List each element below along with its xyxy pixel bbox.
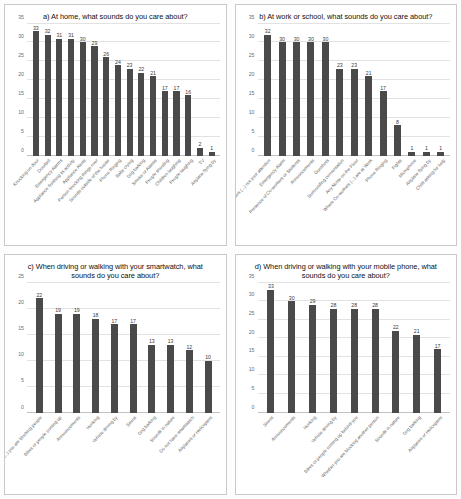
bar[interactable]: 32	[264, 35, 271, 156]
bar[interactable]: 22	[36, 298, 43, 412]
bar-slot: 28	[344, 283, 365, 413]
x-axis-labels-c: (...) you are blocking peopleBikes or pe…	[30, 413, 220, 475]
bar[interactable]: 21	[365, 76, 372, 155]
bar[interactable]: 17	[130, 324, 137, 412]
bar[interactable]: 30	[322, 42, 329, 155]
plot-area-d: 05101520253035333029282828222117	[258, 283, 451, 413]
bar-slot: 30	[318, 24, 332, 156]
bar[interactable]: 30	[307, 42, 314, 155]
chart-title-a: a) At home, what sounds do you care abou…	[5, 5, 226, 24]
x-axis-tick-label: Fights	[391, 158, 403, 170]
bar-slot: 19	[68, 283, 87, 413]
bar[interactable]: 19	[73, 314, 80, 413]
bar[interactable]: 16	[185, 95, 191, 155]
y-axis-tick-label: 0	[21, 404, 24, 410]
bar[interactable]: 32	[45, 35, 51, 156]
bar[interactable]: 17	[162, 91, 168, 155]
bar[interactable]: 10	[205, 361, 212, 413]
bar-value-label: 22	[393, 324, 399, 330]
bar-slot: 17	[105, 283, 124, 413]
bar-slot: 16	[182, 24, 194, 156]
bar[interactable]: 30	[279, 42, 286, 155]
bar[interactable]: 31	[56, 39, 62, 156]
y-axis-tick-label: 30	[249, 291, 255, 297]
bar[interactable]: 23	[351, 69, 358, 156]
bar-slot: 12	[180, 283, 199, 413]
x-axis-tick-label: Co-workers (...) not your attention	[235, 158, 272, 210]
plot-area-c: 051015202522191918171713131210	[27, 283, 220, 413]
y-axis-tick-label: 20	[249, 71, 255, 77]
bar[interactable]: 12	[186, 350, 193, 412]
bar[interactable]: 19	[55, 314, 62, 413]
bar-value-label: 30	[289, 295, 295, 301]
bar[interactable]: 31	[68, 39, 74, 156]
x-axis-tick-label: Sirens	[126, 415, 138, 428]
bar-value-label: 18	[93, 312, 99, 318]
bar-slot: 21	[406, 283, 427, 413]
bar[interactable]: 24	[115, 65, 121, 156]
bar-value-label: 30	[80, 36, 86, 42]
bar[interactable]: 8	[394, 125, 401, 155]
bar[interactable]: 23	[336, 69, 343, 156]
bar[interactable]: 28	[351, 309, 358, 413]
bar[interactable]: 2	[197, 148, 203, 156]
x-axis-tick-label: Bikes or people coming up	[22, 415, 62, 457]
bar-slot: 24	[112, 24, 124, 156]
bar[interactable]: 30	[293, 42, 300, 155]
y-axis-tick-label: 25	[249, 52, 255, 58]
bar[interactable]: 13	[167, 345, 174, 413]
bar-value-label: 19	[74, 307, 80, 313]
bar[interactable]: 29	[91, 46, 97, 155]
y-axis-tick-label: 5	[252, 385, 255, 391]
y-axis-tick-label: 5	[21, 377, 24, 383]
bar[interactable]: 18	[92, 319, 99, 413]
bar[interactable]: 22	[138, 73, 144, 156]
bar-slot: 19	[49, 283, 68, 413]
y-axis-tick-label: 15	[18, 90, 24, 96]
bar-value-label: 32	[45, 28, 51, 34]
bar-value-label: 32	[265, 28, 271, 34]
bar-slot: 1	[419, 24, 433, 156]
four-panel-figure: a) At home, what sounds do you care abou…	[0, 0, 461, 499]
bar-slot: 23	[347, 24, 361, 156]
bar[interactable]: 30	[80, 42, 86, 155]
bar-value-label: 28	[351, 302, 357, 308]
bar[interactable]: 21	[150, 76, 156, 155]
bar-value-label: 1	[210, 145, 213, 151]
y-axis-tick-label: 30	[249, 33, 255, 39]
bar-value-label: 23	[337, 62, 343, 68]
bar-value-label: 17	[130, 318, 136, 324]
bar-slot: 32	[42, 24, 54, 156]
y-axis-tick-label: 15	[249, 90, 255, 96]
bar-slot: 21	[147, 24, 159, 156]
bar[interactable]: 22	[392, 331, 399, 413]
bar[interactable]: 33	[33, 31, 39, 155]
y-axis-tick-label: 20	[18, 299, 24, 305]
y-axis-tick-label: 10	[249, 109, 255, 115]
bar-slot: 17	[171, 24, 183, 156]
bar-slot: 23	[124, 24, 136, 156]
bar[interactable]: 17	[173, 91, 179, 155]
bar[interactable]: 17	[434, 349, 441, 412]
bar[interactable]: 28	[372, 309, 379, 413]
bar[interactable]: 21	[413, 335, 420, 413]
bar[interactable]: 23	[127, 69, 133, 156]
bar-series: 333231313029262423222117171621	[30, 24, 218, 156]
x-axis-tick-label: Sirens	[262, 415, 274, 428]
bar[interactable]: 30	[288, 301, 295, 412]
bar[interactable]: 29	[309, 305, 316, 413]
bar[interactable]: 13	[148, 345, 155, 413]
bar[interactable]: 28	[330, 309, 337, 413]
bar-value-label: 10	[205, 354, 211, 360]
bar-slot: 17	[124, 283, 143, 413]
y-axis-tick-label: 20	[18, 71, 24, 77]
x-axis-tick-label: TV	[198, 158, 206, 166]
plot-area-a: 0510152025303533323131302926242322211717…	[27, 24, 220, 156]
bar-slot: 8	[390, 24, 404, 156]
bar[interactable]: 26	[103, 57, 109, 155]
x-axis-tick-label: Honking	[85, 415, 100, 430]
bar[interactable]: 33	[267, 290, 274, 413]
bar[interactable]: 17	[380, 91, 387, 155]
bar[interactable]: 17	[111, 324, 118, 412]
y-axis-tick-label: 10	[18, 351, 24, 357]
